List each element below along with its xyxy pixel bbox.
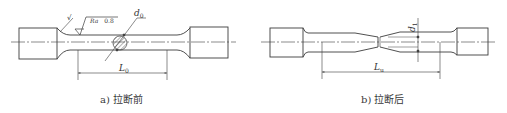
- roughness-label: Ra 0.8: [89, 9, 114, 26]
- gauge-body-bottom-a: [57, 50, 190, 59]
- caption-after-fracture: b) 拉断后: [361, 91, 404, 106]
- left-grip-a: [19, 28, 57, 59]
- lu-label: Lu: [373, 62, 384, 73]
- d1-label: d1: [407, 22, 418, 32]
- fillet-mark-label: √: [67, 14, 72, 22]
- right-grip-b: [457, 28, 488, 55]
- tensile-specimen-diagram: √ Ra 0.8 d0 L0 d1 L: [0, 0, 507, 113]
- d0-label: d0: [134, 8, 144, 19]
- l0-label: L0: [118, 63, 129, 74]
- right-grip-a: [190, 27, 228, 58]
- caption-before-fracture: a) 拉断前: [100, 91, 143, 106]
- left-grip-b: [270, 28, 303, 57]
